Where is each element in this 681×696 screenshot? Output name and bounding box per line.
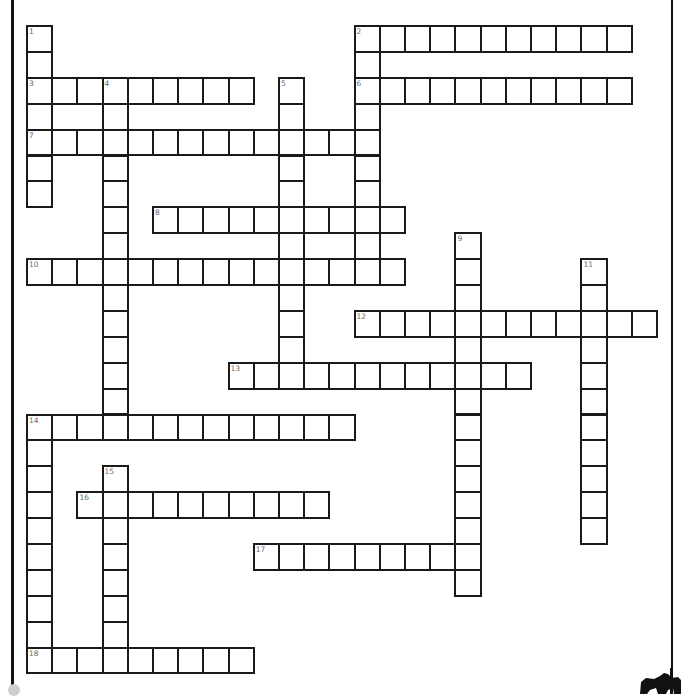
crossword-cell[interactable] xyxy=(505,310,532,338)
crossword-cell[interactable] xyxy=(102,103,129,131)
crossword-cell[interactable] xyxy=(26,621,53,649)
crossword-cell[interactable] xyxy=(253,206,280,234)
crossword-cell[interactable] xyxy=(228,129,255,157)
crossword-cell[interactable] xyxy=(51,129,78,157)
crossword-cell[interactable] xyxy=(26,439,53,467)
crossword-cell[interactable] xyxy=(580,310,607,338)
crossword-cell[interactable] xyxy=(505,25,532,53)
crossword-cell[interactable]: 5 xyxy=(278,77,305,105)
crossword-cell[interactable] xyxy=(606,25,633,53)
crossword-cell[interactable] xyxy=(303,362,330,390)
crossword-cell[interactable] xyxy=(328,258,355,286)
crossword-cell[interactable] xyxy=(429,77,456,105)
crossword-cell[interactable] xyxy=(102,621,129,649)
crossword-cell[interactable] xyxy=(454,362,481,390)
crossword-cell[interactable] xyxy=(278,206,305,234)
crossword-cell[interactable] xyxy=(228,258,255,286)
crossword-cell[interactable] xyxy=(303,206,330,234)
crossword-cell[interactable] xyxy=(354,129,381,157)
crossword-cell[interactable] xyxy=(631,310,658,338)
crossword-cell[interactable] xyxy=(152,129,179,157)
crossword-cell[interactable] xyxy=(102,180,129,208)
crossword-cell[interactable] xyxy=(303,129,330,157)
crossword-cell[interactable]: 17 xyxy=(253,543,280,571)
crossword-cell[interactable] xyxy=(354,103,381,131)
crossword-cell[interactable] xyxy=(76,258,103,286)
crossword-cell[interactable] xyxy=(152,258,179,286)
crossword-cell[interactable] xyxy=(253,491,280,519)
crossword-cell[interactable]: 18 xyxy=(26,647,53,675)
crossword-cell[interactable] xyxy=(202,129,229,157)
crossword-cell[interactable] xyxy=(354,51,381,79)
crossword-cell[interactable] xyxy=(51,414,78,442)
crossword-cell[interactable] xyxy=(328,362,355,390)
crossword-cell[interactable] xyxy=(328,129,355,157)
crossword-cell[interactable] xyxy=(454,284,481,312)
crossword-cell[interactable] xyxy=(102,336,129,364)
crossword-cell[interactable] xyxy=(127,647,154,675)
crossword-cell[interactable] xyxy=(454,25,481,53)
crossword-cell[interactable] xyxy=(26,569,53,597)
crossword-cell[interactable] xyxy=(580,414,607,442)
crossword-cell[interactable] xyxy=(480,310,507,338)
crossword-cell[interactable] xyxy=(26,103,53,131)
crossword-cell[interactable] xyxy=(26,595,53,623)
crossword-cell[interactable] xyxy=(102,569,129,597)
crossword-cell[interactable] xyxy=(26,180,53,208)
crossword-cell[interactable] xyxy=(102,517,129,545)
crossword-cell[interactable] xyxy=(177,414,204,442)
crossword-cell[interactable] xyxy=(102,491,129,519)
crossword-cell[interactable] xyxy=(530,310,557,338)
crossword-cell[interactable] xyxy=(102,129,129,157)
crossword-cell[interactable] xyxy=(278,414,305,442)
crossword-cell[interactable]: 4 xyxy=(102,77,129,105)
crossword-cell[interactable] xyxy=(102,543,129,571)
crossword-cell[interactable] xyxy=(278,180,305,208)
crossword-cell[interactable] xyxy=(328,414,355,442)
crossword-cell[interactable] xyxy=(480,362,507,390)
crossword-cell[interactable] xyxy=(454,258,481,286)
crossword-cell[interactable] xyxy=(102,155,129,183)
crossword-cell[interactable] xyxy=(127,414,154,442)
crossword-cell[interactable] xyxy=(177,129,204,157)
crossword-cell[interactable] xyxy=(127,258,154,286)
crossword-cell[interactable] xyxy=(102,232,129,260)
crossword-cell[interactable] xyxy=(454,517,481,545)
crossword-cell[interactable] xyxy=(454,491,481,519)
crossword-cell[interactable] xyxy=(76,414,103,442)
crossword-cell[interactable] xyxy=(152,77,179,105)
crossword-cell[interactable] xyxy=(303,491,330,519)
crossword-cell[interactable] xyxy=(102,595,129,623)
crossword-cell[interactable] xyxy=(228,206,255,234)
crossword-cell[interactable]: 8 xyxy=(152,206,179,234)
crossword-cell[interactable] xyxy=(328,543,355,571)
crossword-cell[interactable] xyxy=(102,362,129,390)
crossword-cell[interactable] xyxy=(328,206,355,234)
crossword-cell[interactable] xyxy=(454,388,481,416)
crossword-cell[interactable] xyxy=(253,129,280,157)
crossword-cell[interactable] xyxy=(606,77,633,105)
crossword-cell[interactable] xyxy=(202,647,229,675)
crossword-cell[interactable] xyxy=(404,310,431,338)
crossword-cell[interactable] xyxy=(177,647,204,675)
crossword-cell[interactable] xyxy=(202,491,229,519)
crossword-cell[interactable] xyxy=(177,491,204,519)
crossword-cell[interactable] xyxy=(228,414,255,442)
crossword-cell[interactable] xyxy=(379,543,406,571)
crossword-cell[interactable]: 12 xyxy=(354,310,381,338)
crossword-cell[interactable] xyxy=(228,647,255,675)
crossword-cell[interactable] xyxy=(354,543,381,571)
crossword-cell[interactable]: 2 xyxy=(354,25,381,53)
crossword-cell[interactable]: 9 xyxy=(454,232,481,260)
crossword-cell[interactable] xyxy=(404,77,431,105)
crossword-cell[interactable] xyxy=(354,206,381,234)
crossword-cell[interactable] xyxy=(580,388,607,416)
crossword-cell[interactable] xyxy=(354,362,381,390)
crossword-cell[interactable]: 6 xyxy=(354,77,381,105)
crossword-cell[interactable] xyxy=(26,491,53,519)
crossword-cell[interactable] xyxy=(76,77,103,105)
crossword-cell[interactable] xyxy=(303,414,330,442)
crossword-cell[interactable] xyxy=(429,543,456,571)
crossword-cell[interactable] xyxy=(228,491,255,519)
crossword-cell[interactable] xyxy=(580,517,607,545)
